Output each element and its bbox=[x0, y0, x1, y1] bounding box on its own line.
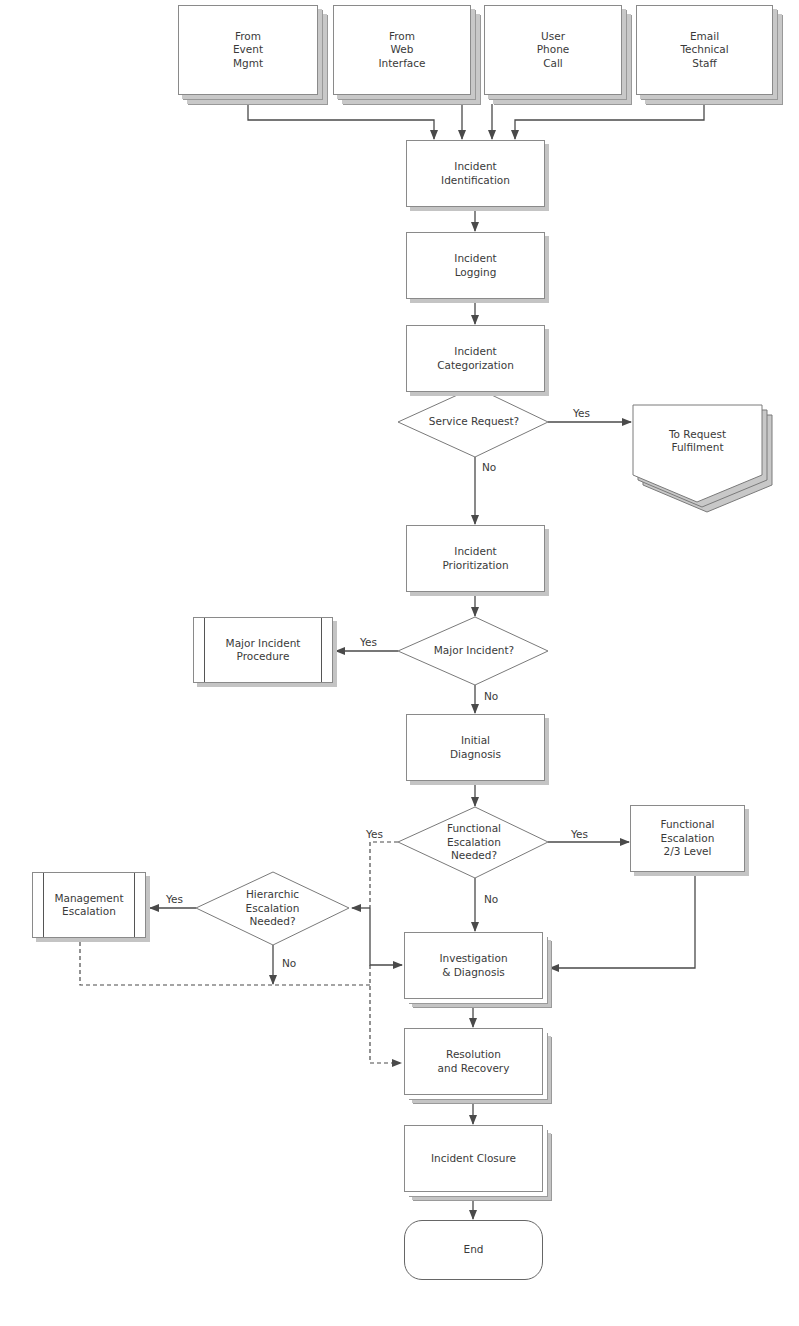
input-email-technical-staff: Email Technical Staff bbox=[636, 5, 773, 95]
input-label: Email Technical Staff bbox=[680, 30, 728, 71]
decision-label: Hierarchic Escalation Needed? bbox=[246, 888, 300, 929]
process-label: Incident Prioritization bbox=[442, 545, 508, 572]
incident-categorization-box: Incident Categorization bbox=[406, 325, 545, 392]
hierarchic-no-label: No bbox=[282, 957, 296, 969]
functional-escalation-level-box: Functional Escalation 2/3 Level bbox=[630, 805, 745, 872]
input-label: From Web Interface bbox=[378, 30, 425, 71]
incident-closure-box: Incident Closure bbox=[404, 1125, 543, 1192]
process-label: Incident Logging bbox=[454, 252, 496, 279]
external-label: To Request Fulfilment bbox=[669, 428, 726, 455]
input-label: User Phone Call bbox=[537, 30, 570, 71]
decision-label: Functional Escalation Needed? bbox=[447, 822, 501, 863]
process-label: Incident Closure bbox=[431, 1152, 516, 1166]
terminal-label: End bbox=[464, 1243, 484, 1257]
input-label: From Event Mgmt bbox=[233, 30, 263, 71]
process-label: Resolution and Recovery bbox=[438, 1048, 510, 1075]
major-incident-yes-label: Yes bbox=[360, 636, 377, 648]
management-escalation-box: Management Escalation bbox=[32, 872, 146, 938]
hierarchic-yes-label: Yes bbox=[166, 893, 183, 905]
decision-label: Service Request? bbox=[429, 415, 519, 429]
hierarchic-escalation-decision: Hierarchic Escalation Needed? bbox=[196, 872, 349, 945]
service-request-yes-label: Yes bbox=[573, 407, 590, 419]
major-incident-no-label: No bbox=[484, 690, 498, 702]
external-label: Management Escalation bbox=[54, 892, 123, 919]
external-label: Major Incident Procedure bbox=[226, 637, 301, 664]
input-web-interface: From Web Interface bbox=[333, 5, 471, 95]
process-label: Investigation & Diagnosis bbox=[439, 952, 507, 979]
initial-diagnosis-box: Initial Diagnosis bbox=[406, 714, 545, 781]
major-incident-decision: Major Incident? bbox=[398, 617, 550, 685]
decision-label: Major Incident? bbox=[434, 644, 514, 658]
process-label: Incident Identification bbox=[441, 160, 510, 187]
functional-yes-left-label: Yes bbox=[366, 828, 383, 840]
input-user-phone-call: User Phone Call bbox=[484, 5, 622, 95]
incident-identification-box: Incident Identification bbox=[406, 140, 545, 207]
incident-logging-box: Incident Logging bbox=[406, 232, 545, 299]
service-request-no-label: No bbox=[482, 461, 496, 473]
resolution-recovery-box: Resolution and Recovery bbox=[404, 1028, 543, 1095]
functional-yes-right-label: Yes bbox=[571, 828, 588, 840]
major-incident-procedure-box: Major Incident Procedure bbox=[193, 617, 333, 683]
process-label: Incident Categorization bbox=[437, 345, 514, 372]
end-terminal: End bbox=[404, 1220, 543, 1280]
incident-prioritization-box: Incident Prioritization bbox=[406, 525, 545, 592]
service-request-decision: Service Request? bbox=[398, 387, 550, 457]
investigation-diagnosis-box: Investigation & Diagnosis bbox=[404, 932, 543, 999]
process-label: Initial Diagnosis bbox=[450, 734, 501, 761]
functional-no-label: No bbox=[484, 893, 498, 905]
incident-management-flowchart: From Event Mgmt From Web Interface User … bbox=[0, 0, 799, 1326]
input-event-mgmt: From Event Mgmt bbox=[178, 5, 318, 95]
external-label: Functional Escalation 2/3 Level bbox=[660, 818, 714, 859]
functional-escalation-decision: Functional Escalation Needed? bbox=[398, 807, 550, 878]
request-fulfilment-label-box: To Request Fulfilment bbox=[633, 405, 762, 477]
